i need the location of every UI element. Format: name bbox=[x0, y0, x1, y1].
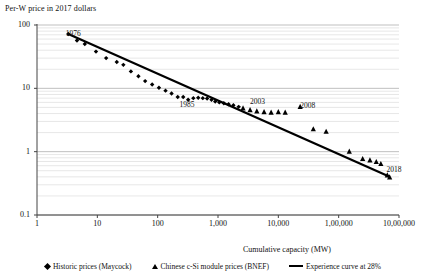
y-tick-label: 100 bbox=[4, 21, 30, 29]
chart-legend: Historic prices (Maycock) Chinese c-Si m… bbox=[0, 258, 426, 274]
x-tick-label: 10,000 bbox=[248, 220, 308, 228]
y-tick-label: 0.1 bbox=[4, 211, 30, 219]
legend-item-historic-prices: Historic prices (Maycock) bbox=[45, 262, 132, 271]
triangle-marker-icon bbox=[152, 264, 158, 269]
annotation-2003: 2003 bbox=[250, 98, 265, 106]
y-tick-label: 10 bbox=[4, 84, 30, 92]
annotation-1976: 1976 bbox=[66, 30, 81, 38]
line-marker-icon bbox=[289, 265, 303, 268]
x-tick-label: 100 bbox=[128, 220, 188, 228]
annotation-2018: 2018 bbox=[386, 166, 401, 174]
legend-label-chinese-csi-prices: Chinese c-Si module prices (BNEF) bbox=[161, 262, 269, 271]
legend-label-historic-prices: Historic prices (Maycock) bbox=[53, 262, 132, 271]
x-tick-label: 10 bbox=[67, 220, 127, 228]
legend-label-experience-curve: Experience curve at 28% bbox=[306, 262, 381, 271]
legend-item-experience-curve: Experience curve at 28% bbox=[289, 262, 381, 271]
diamond-marker-icon bbox=[44, 262, 51, 269]
x-tick-label: 1,00,000 bbox=[309, 220, 369, 228]
x-tick-label: 10,00,000 bbox=[369, 220, 426, 228]
legend-item-chinese-csi-prices: Chinese c-Si module prices (BNEF) bbox=[152, 262, 269, 271]
plot-canvas bbox=[0, 0, 426, 280]
annotation-2008: 2008 bbox=[300, 102, 315, 110]
x-tick-label: 1 bbox=[7, 220, 67, 228]
experience-curve-chart: Per-W price in 2017 dollars Cumulative c… bbox=[0, 0, 426, 280]
annotation-1985: 1985 bbox=[179, 101, 194, 109]
x-tick-label: 1,000 bbox=[188, 220, 248, 228]
y-tick-label: 1 bbox=[4, 148, 30, 156]
